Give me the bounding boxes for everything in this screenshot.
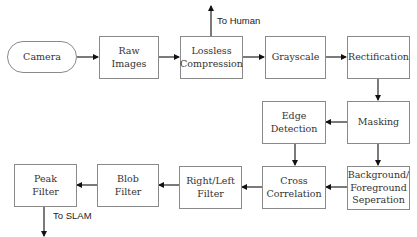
node-camera: Camera [7, 41, 77, 73]
label-to-human: To Human [217, 15, 260, 26]
label-to-slam: To SLAM [53, 210, 92, 221]
node-lossless-compression: Lossless Compression [180, 36, 243, 79]
node-masking: Masking [347, 101, 410, 144]
node-right-left-filter: Right/Left Filter [179, 166, 242, 209]
node-grayscale: Grayscale [265, 36, 326, 79]
node-blob-filter: Blob Filter [97, 164, 159, 207]
pipeline-diagram: Camera Raw Images Lossless Compression G… [0, 0, 417, 237]
node-peak-filter: Peak Filter [14, 164, 77, 207]
node-rectification: Rectification [347, 36, 410, 79]
node-raw-images: Raw Images [99, 36, 159, 79]
node-cross-correlation: Cross Correlation [262, 166, 326, 209]
node-edge-detection: Edge Detection [262, 101, 326, 144]
node-background-foreground-separation: Background/ Foreground Seperation [347, 166, 410, 210]
